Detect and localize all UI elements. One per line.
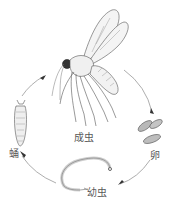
arrow-egg-to-larva — [120, 160, 150, 184]
pupa-illustration — [15, 100, 27, 146]
life-cycle-diagram: 成虫 卵 幼虫 蛹 — [0, 0, 174, 205]
stage-label-larva: 幼虫 — [87, 187, 107, 198]
stage-label-egg: 卵 — [150, 150, 160, 161]
stage-label-pupa: 蛹 — [9, 148, 19, 159]
eggs-illustration — [136, 118, 163, 146]
stage-label-adult: 成虫 — [74, 132, 94, 143]
cycle-arrows — [20, 70, 154, 185]
adult-insect-illustration — [52, 10, 128, 126]
larva-illustration — [62, 158, 112, 190]
arrow-adult-to-egg — [124, 70, 152, 112]
arrow-pupa-to-adult — [22, 76, 44, 96]
diagram-drawing — [0, 0, 174, 205]
arrow-larva-to-pupa — [22, 156, 56, 183]
